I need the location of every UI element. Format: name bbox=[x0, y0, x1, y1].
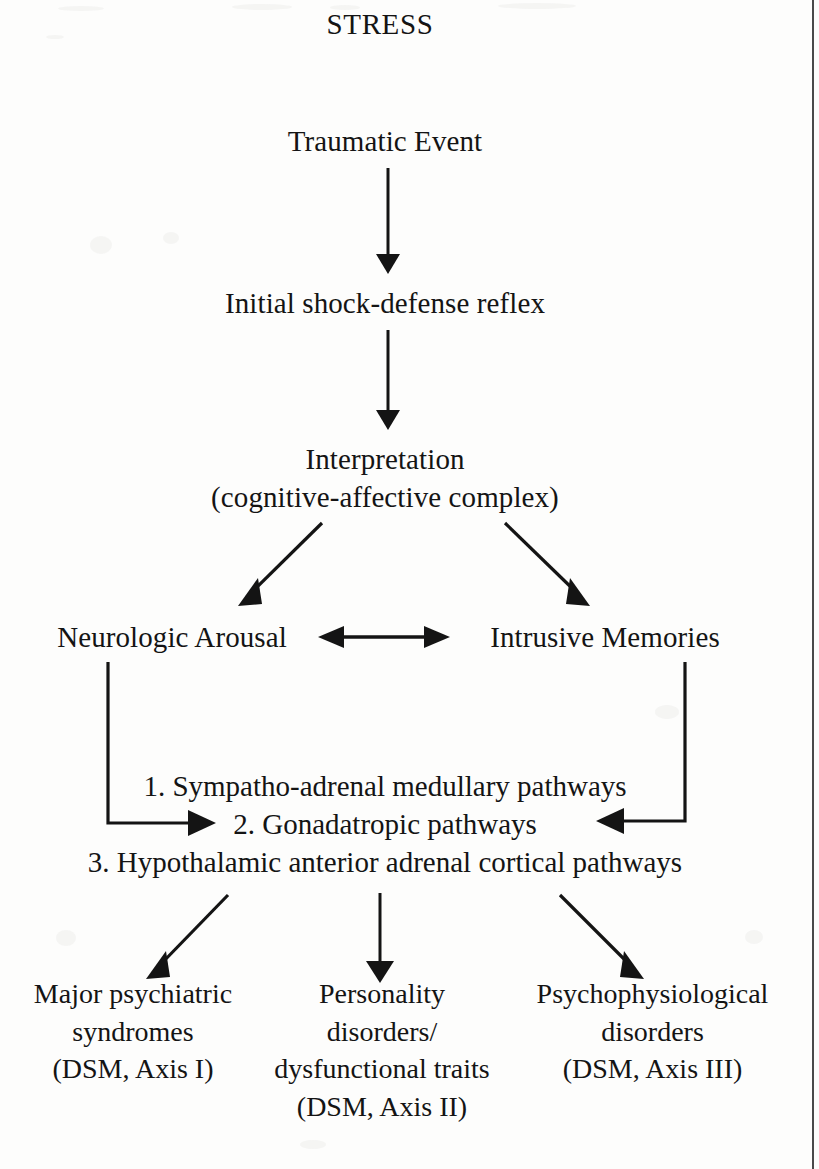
pathway-item-1: 1. Sympatho-adrenal medullary pathways bbox=[0, 770, 770, 803]
node-neurologic-arousal: Neurologic Arousal bbox=[24, 619, 320, 657]
page-edge-rule bbox=[812, 0, 814, 1169]
arrow-pathways-to-personality bbox=[366, 893, 394, 983]
diagram-page: STRESS Traumatic Event Initial shock-def… bbox=[0, 0, 819, 1169]
arrow-pathways-to-psychophysiological bbox=[560, 895, 644, 979]
arrow-shock-to-interpretation bbox=[376, 330, 400, 430]
outcome-psychophysiological-disorders: Psychophysiological disorders (DSM, Axis… bbox=[505, 975, 800, 1088]
scan-speckle bbox=[745, 930, 763, 944]
arrow-pathways-to-major-psychiatric bbox=[146, 895, 228, 979]
arrow-bidirectional-arousal-memories bbox=[318, 626, 450, 648]
scan-speckle bbox=[90, 236, 112, 254]
node-interpretation-line1: Interpretation bbox=[0, 441, 770, 479]
outcome-personality-disorders: Personality disorders/ dysfunctional tra… bbox=[253, 975, 511, 1125]
pathway-item-2: 2. Gonadatropic pathways bbox=[0, 808, 770, 841]
node-interpretation-line2: (cognitive-affective complex) bbox=[0, 479, 770, 517]
arrow-interpretation-to-memories bbox=[505, 523, 590, 606]
diagram-title: STRESS bbox=[0, 6, 760, 44]
scan-speckle bbox=[300, 1140, 326, 1149]
scan-speckle bbox=[56, 930, 76, 946]
arrow-traumatic-to-shock bbox=[376, 168, 400, 274]
node-intrusive-memories: Intrusive Memories bbox=[450, 619, 760, 657]
outcome-major-psychiatric-syndromes: Major psychiatric syndromes (DSM, Axis I… bbox=[0, 975, 266, 1088]
pathway-item-3: 3. Hypothalamic anterior adrenal cortica… bbox=[0, 846, 770, 879]
arrow-interpretation-to-arousal bbox=[238, 523, 322, 606]
scan-speckle bbox=[655, 705, 679, 719]
node-initial-shock-defense-reflex: Initial shock-defense reflex bbox=[0, 285, 770, 323]
scan-speckle bbox=[163, 232, 179, 244]
node-traumatic-event: Traumatic Event bbox=[0, 123, 770, 161]
